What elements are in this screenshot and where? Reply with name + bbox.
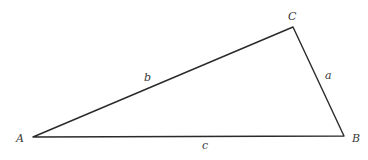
side-label-a: a	[325, 69, 332, 82]
side-label-b: b	[144, 71, 151, 84]
triangle-abc	[33, 27, 344, 137]
triangle-diagram: A B C a b c	[0, 0, 368, 160]
vertex-label-b: B	[351, 132, 360, 145]
side-label-c: c	[202, 139, 208, 152]
vertex-label-c: C	[288, 10, 297, 23]
vertex-label-a: A	[15, 132, 24, 145]
